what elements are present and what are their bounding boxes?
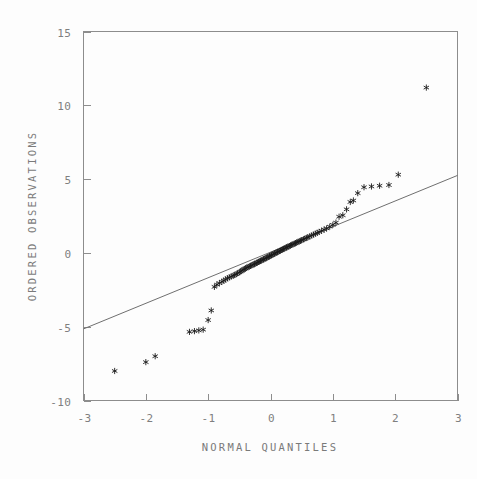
- x-tick-label: 3: [455, 412, 462, 425]
- y-tick-label: -5: [57, 322, 71, 335]
- y-axis-label: ORDERED OBSERVATIONS: [26, 131, 38, 301]
- x-tick-label: -1: [201, 412, 215, 425]
- y-tick-label: 5: [64, 174, 71, 187]
- qq-plot-page: -3-2-10123 -10-5051015 NORMAL QUANTILES …: [0, 0, 477, 479]
- y-tick-label: 15: [57, 27, 71, 40]
- x-tick-label: -2: [139, 412, 153, 425]
- x-axis-label: NORMAL QUANTILES: [202, 441, 338, 453]
- figure-background: [0, 0, 477, 479]
- x-tick-label: 1: [330, 412, 337, 425]
- x-tick-label: -3: [77, 412, 91, 425]
- x-tick-label: 2: [392, 412, 399, 425]
- y-tick-label: 0: [64, 248, 71, 261]
- qq-plot-figure: -3-2-10123 -10-5051015 NORMAL QUANTILES …: [0, 0, 477, 479]
- y-tick-label: 10: [57, 100, 71, 113]
- x-tick-label: 0: [268, 412, 275, 425]
- y-tick-label: -10: [50, 396, 71, 409]
